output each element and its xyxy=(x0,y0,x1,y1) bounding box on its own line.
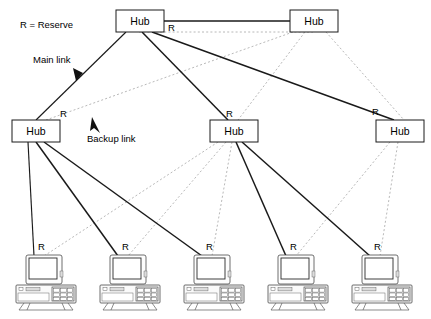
workstation-node-3[interactable] xyxy=(184,255,244,310)
hub-node-mid-center[interactable]: Hub xyxy=(210,120,258,142)
link-ml-ws1 xyxy=(28,142,34,256)
workstation-node-4[interactable] xyxy=(268,255,328,310)
front-badge-icon xyxy=(194,288,208,291)
link-tl-ml xyxy=(36,32,126,120)
stand-icon xyxy=(19,303,73,310)
reserve-marker-workstation-1: R xyxy=(38,241,45,252)
hub-node-mid-left[interactable]: Hub xyxy=(12,120,60,142)
stand-icon xyxy=(355,303,409,310)
link-mc-ws3 xyxy=(212,142,232,256)
hub-label: Hub xyxy=(130,15,149,27)
link-mr-ws5 xyxy=(380,142,398,256)
reserve-marker-core: R xyxy=(168,22,175,33)
power-indicator-icon xyxy=(187,288,191,291)
monitor-side-vent-icon xyxy=(144,271,147,277)
front-badge-icon xyxy=(278,288,292,291)
network-diagram: R = Reserve Main link Backup link R R R … xyxy=(0,0,431,319)
power-indicator-icon xyxy=(103,288,107,291)
workstation-node-5[interactable] xyxy=(352,255,412,310)
link-ml-ws2 xyxy=(36,142,118,256)
keyboard-icon xyxy=(18,293,49,301)
monitor-screen-icon xyxy=(29,258,57,279)
reserve-marker-hub-mid-left: R xyxy=(60,108,67,119)
monitor-screen-icon xyxy=(281,258,309,279)
link-mc-ws2 xyxy=(128,142,226,256)
drive-bay-cells-icon xyxy=(138,289,157,301)
link-tr-mr xyxy=(326,32,404,120)
reserve-marker-workstation-5: R xyxy=(374,241,381,252)
link-tr-ml xyxy=(46,32,293,120)
front-badge-icon xyxy=(362,288,376,291)
legend-backup-link-label: Backup link xyxy=(87,133,136,144)
stand-icon xyxy=(103,303,157,310)
hub-label: Hub xyxy=(26,125,45,137)
monitor-screen-icon xyxy=(197,258,225,279)
monitor-screen-icon xyxy=(365,258,393,279)
hub-node-mid-right[interactable]: Hub xyxy=(376,120,424,142)
front-badge-icon xyxy=(26,288,40,291)
hub-node-top-right[interactable]: Hub xyxy=(290,10,338,32)
hub-label: Hub xyxy=(390,125,409,137)
link-ml-ws3 xyxy=(44,142,202,256)
front-badge-icon xyxy=(110,288,124,291)
power-indicator-icon xyxy=(19,288,23,291)
workstation-node-2[interactable] xyxy=(100,255,160,310)
monitor-side-vent-icon xyxy=(60,271,63,277)
drive-bay-cells-icon xyxy=(54,289,73,301)
link-mc-ws1 xyxy=(44,142,218,256)
reserve-marker-workstation-3: R xyxy=(206,241,213,252)
backup-link-arrow-icon xyxy=(90,117,100,133)
keyboard-icon xyxy=(102,293,133,301)
backup-links-group xyxy=(44,32,404,256)
link-mr-ws4 xyxy=(296,142,390,256)
reserve-marker-workstation-2: R xyxy=(122,241,129,252)
power-indicator-icon xyxy=(355,288,359,291)
drive-bay-cells-icon xyxy=(390,289,409,301)
monitor-side-vent-icon xyxy=(228,271,231,277)
keyboard-icon xyxy=(186,293,217,301)
legend-reserve-key: R = Reserve xyxy=(20,19,73,30)
stand-icon xyxy=(271,303,325,310)
reserve-marker-workstation-4: R xyxy=(290,241,297,252)
monitor-side-vent-icon xyxy=(396,271,399,277)
power-indicator-icon xyxy=(271,288,275,291)
monitor-side-vent-icon xyxy=(312,271,315,277)
drive-bay-cells-icon xyxy=(306,289,325,301)
link-tl-mr xyxy=(152,32,394,120)
drive-bay-cells-icon xyxy=(222,289,241,301)
hub-label: Hub xyxy=(304,15,323,27)
keyboard-icon xyxy=(270,293,301,301)
link-tl-mc xyxy=(142,32,228,120)
keyboard-icon xyxy=(354,293,385,301)
reserve-marker-hub-mid-center: R xyxy=(226,108,233,119)
legend-main-link-label: Main link xyxy=(33,54,71,65)
hub-node-top-left[interactable]: Hub xyxy=(116,10,164,32)
stand-icon xyxy=(187,303,241,310)
reserve-marker-hub-mid-right: R xyxy=(372,106,379,117)
workstation-node-1[interactable] xyxy=(16,255,76,310)
monitor-screen-icon xyxy=(113,258,141,279)
hub-label: Hub xyxy=(224,125,243,137)
